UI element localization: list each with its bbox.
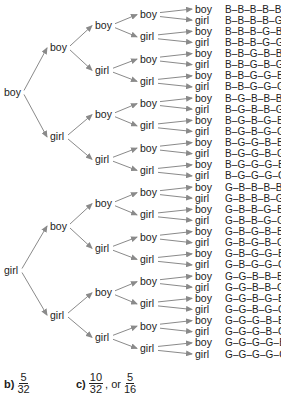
answer-c: c) 10 32 , or 5 16 [76,372,136,395]
branch-arrow [160,106,192,110]
outcome-label: B–G–G–B–G [225,148,281,159]
branch-arrow [113,148,137,157]
branch-arrow [158,165,192,169]
outcome-label: G–G–B–G–B [225,293,281,304]
outcome-label: B–G–G–G–G [225,170,281,181]
branch-arrow [113,250,137,259]
tree-nodes: boygirlboygirlboygirlboygirlboygirlboygi… [4,3,213,360]
branch-arrow [160,150,192,154]
outcome-label: G–B–B–B–B [225,182,281,193]
tree-node-girl: girl [140,342,154,354]
tree-node-girl: girl [95,331,109,343]
outcome-label: B–G–G–B–B [225,137,281,148]
branch-arrow [160,284,192,288]
outcome-label: B–B–B–G–B [225,26,281,37]
tree-node-girl: girl [140,208,154,220]
branch-arrow [113,326,137,335]
tree-node-boy: boy [140,53,158,65]
branch-arrow [160,98,192,102]
answer-c-label: c) [76,378,86,390]
branch-arrow [158,31,192,35]
branch-arrow [160,232,192,236]
branch-arrow [115,15,137,24]
tree-node-boy: boy [140,275,158,287]
tree-node-boy: boy [95,108,113,120]
branch-arrow [24,48,47,91]
branch-arrow [158,217,192,221]
tree-node-boy: boy [140,186,158,198]
branch-arrow [115,28,137,37]
branch-arrow [115,282,137,291]
answer-b-label: b) [4,378,14,390]
answer-c-alt-fraction: 5 16 [124,372,136,395]
branch-arrow [115,104,137,113]
tree-node-boy: boy [140,320,158,332]
tree-node-girl: girl [140,297,154,309]
outcome-label: G–G–G–G–B [225,337,281,348]
outcome-label: G–G–G–B–B [225,315,281,326]
outcome-label: B–B–G–B–G [225,59,281,70]
branch-arrow [158,306,192,310]
branch-arrow [160,9,192,13]
branch-arrow [115,193,137,202]
tree-node-girl: girl [140,119,154,131]
tree-node-boy: boy [95,286,113,298]
branch-arrow [113,237,137,246]
branch-arrow [158,76,192,80]
tree-node-girl: girl [95,153,109,165]
branch-arrow [160,61,192,65]
outcome-label: G–G–G–G–G [225,349,281,360]
tree-node-girl: girl [50,130,64,142]
tree-node-boy: boy [95,19,113,31]
answer-c-denominator: 32 [90,384,102,395]
outcome-label: B–B–B–B–B [225,4,281,15]
answer-b: b) 5 32 [4,372,30,395]
outcome-label: B–B–B–B–G [225,15,281,26]
branch-arrow [113,72,137,81]
outcome-label: G–B–B–G–G [225,215,281,226]
tree-node-girl: girl [140,75,154,87]
branch-arrow [158,350,192,354]
outcome-label: G–B–B–B–G [225,193,281,204]
branch-arrow [70,26,92,46]
branch-arrow [160,195,192,199]
tree-node-girl: girl [140,164,154,176]
branch-arrow [68,115,92,135]
outcome-list: B–B–B–B–BB–B–B–B–GB–B–B–G–BB–B–B–G–GB–B–… [225,4,281,360]
branch-arrow [115,295,137,304]
tree-node-girl: girl [95,242,109,254]
branch-arrow [70,50,92,70]
branch-arrow [160,143,192,147]
tree-node-girl: girl [4,264,18,276]
outcome-label: B–B–G–B–B [225,48,281,59]
outcome-label: G–B–G–B–G [225,237,281,248]
branch-arrow [70,204,92,224]
branch-arrow [115,117,137,126]
branch-arrow [158,343,192,347]
branch-arrow [113,59,137,68]
outcome-label: G–G–G–B–G [225,326,281,337]
branch-arrow [22,273,47,316]
branch-arrow [158,172,192,176]
tree-node-boy: boy [140,231,158,243]
branch-arrow [158,298,192,302]
answer-c-separator: , or [105,378,121,390]
branch-arrow [68,293,92,313]
tree-node-boy: boy [140,97,158,109]
branch-arrow [158,83,192,87]
branch-arrow [70,228,92,248]
branch-arrow [22,226,47,269]
outcome-label: B–G–G–G–B [225,159,281,170]
outcome-label: B–B–G–G–G [225,81,281,92]
tree-node-boy: boy [50,41,68,53]
outcome-label: G–G–B–G–G [225,304,281,315]
branch-arrow [158,261,192,265]
tree-node-girl: girl [95,64,109,76]
tree-node-boy: boy [50,220,68,232]
outcome-label: B–B–G–G–B [225,70,281,81]
tree-edges [22,9,192,354]
branch-arrow [68,139,92,159]
answer-c-alt-denominator: 16 [124,384,136,395]
branch-arrow [160,321,192,325]
branch-arrow [113,161,137,170]
